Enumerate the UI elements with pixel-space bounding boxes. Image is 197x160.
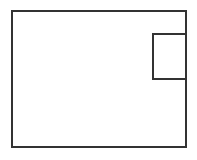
inner-rectangle: [153, 34, 186, 79]
rectangle-diagram: [0, 0, 197, 160]
diagram-canvas: [0, 0, 197, 160]
